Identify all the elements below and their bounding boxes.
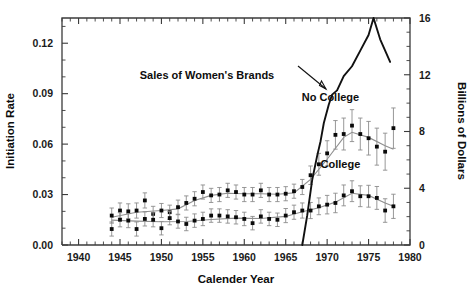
data-point [126, 219, 130, 223]
data-point [143, 199, 147, 203]
x-tick-label: 1960 [233, 251, 257, 263]
data-point [276, 218, 280, 222]
data-point [226, 215, 230, 219]
y2-axis-title: Billions of Dollars [456, 82, 468, 180]
y2-tick-labels: 0481216 [419, 12, 431, 251]
data-point [160, 226, 164, 230]
y-tick-label: 0.09 [33, 87, 54, 99]
data-point [300, 209, 304, 213]
data-point [226, 188, 230, 192]
x-tick-labels: 194019451950195519601965197019751980 [67, 251, 422, 263]
chart-figure: 194019451950195519601965197019751980 0.0… [0, 0, 471, 290]
data-point [110, 227, 114, 231]
data-point [209, 214, 213, 218]
data-point [300, 185, 304, 189]
y-tick-label: 0.06 [33, 138, 54, 150]
data-point [184, 201, 188, 205]
college-annotation-label: College [321, 158, 361, 170]
data-point [342, 193, 346, 197]
x-tick-label: 1945 [108, 251, 132, 263]
data-point [251, 221, 255, 225]
data-point [292, 210, 296, 214]
data-point [193, 219, 197, 223]
sales-annotation-label: Sales of Women's Brands [140, 69, 274, 81]
y2-tick-label: 4 [419, 182, 425, 194]
data-point [135, 209, 139, 213]
data-point [209, 193, 213, 197]
data-point [342, 132, 346, 136]
data-point [135, 227, 139, 231]
data-point [110, 214, 114, 218]
data-point [126, 209, 130, 213]
data-point [358, 132, 362, 136]
data-point [383, 150, 387, 154]
data-point [350, 189, 354, 193]
y-axis-title: Initiation Rate [4, 93, 16, 169]
x-axis-title: Calender Year [198, 273, 275, 285]
x-tick-label: 1965 [274, 251, 298, 263]
data-point [259, 188, 263, 192]
data-point [292, 189, 296, 193]
x-tick-label: 1980 [398, 251, 422, 263]
data-point [184, 222, 188, 226]
y2-tick-label: 16 [419, 12, 431, 24]
trend-line [112, 132, 394, 217]
data-point [218, 193, 222, 197]
data-point [392, 204, 396, 208]
data-point [201, 217, 205, 221]
chart-canvas: 194019451950195519601965197019751980 0.0… [0, 0, 471, 290]
data-point [176, 205, 180, 209]
data-point [375, 145, 379, 149]
y2-tick-label: 0 [419, 239, 425, 251]
no-college-annotation-label: No College [302, 91, 359, 103]
data-point [143, 217, 147, 221]
data-point [160, 209, 164, 213]
y-tick-label: 0.00 [33, 239, 54, 251]
data-point [284, 192, 288, 196]
x-tick-label: 1950 [150, 251, 174, 263]
data-point [309, 173, 313, 177]
data-point [358, 194, 362, 198]
data-point [317, 204, 321, 208]
y-tick-labels: 0.000.030.060.090.12 [33, 37, 54, 251]
data-point [259, 215, 263, 219]
data-point [309, 209, 313, 213]
data-point [375, 196, 379, 200]
data-point [276, 193, 280, 197]
data-point [234, 190, 238, 194]
data-point [350, 124, 354, 128]
y2-tick-label: 12 [419, 69, 431, 81]
data-point [234, 215, 238, 219]
data-point [392, 126, 396, 130]
y-tick-label: 0.03 [33, 188, 54, 200]
data-point [193, 197, 197, 201]
data-point [367, 194, 371, 198]
data-point [218, 214, 222, 218]
data-point [334, 201, 338, 205]
data-point [151, 218, 155, 222]
data-point [251, 193, 255, 197]
data-point [383, 209, 387, 213]
data-point [267, 217, 271, 221]
x-tick-label: 1975 [357, 251, 381, 263]
data-point [334, 133, 338, 137]
y2-tick-label: 8 [419, 125, 425, 137]
data-point [201, 190, 205, 194]
x-tick-label: 1940 [67, 251, 91, 263]
data-point [367, 136, 371, 140]
data-point [176, 220, 180, 224]
annotation-arrow [298, 66, 326, 89]
data-point [242, 217, 246, 221]
sales-arrow-shaft [298, 66, 326, 89]
data-point [325, 203, 329, 207]
data-series [110, 108, 396, 236]
data-point [242, 193, 246, 197]
y-tick-label: 0.12 [33, 37, 54, 49]
x-tick-label: 1970 [315, 251, 339, 263]
data-point [267, 193, 271, 197]
data-point [168, 216, 172, 220]
x-tick-label: 1955 [191, 251, 215, 263]
data-point [284, 214, 288, 218]
data-point [118, 218, 122, 222]
data-point [118, 209, 122, 213]
